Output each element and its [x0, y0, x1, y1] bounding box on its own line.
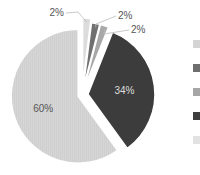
- pie-chart: 2%2%2%34%60%: [0, 0, 200, 175]
- legend-swatch: [193, 88, 200, 96]
- legend-swatch: [193, 64, 200, 72]
- legend-swatch: [193, 136, 200, 144]
- legend-swatch: [193, 40, 200, 48]
- legend: [193, 40, 200, 160]
- slice-label: 2%: [50, 7, 65, 18]
- slice-label: 2%: [131, 24, 146, 35]
- slice-label: 60%: [33, 103, 53, 114]
- slice-label: 2%: [118, 10, 133, 21]
- slice-label: 34%: [115, 85, 135, 96]
- legend-swatch: [193, 112, 200, 120]
